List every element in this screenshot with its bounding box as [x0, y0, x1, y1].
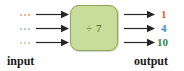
placeholder-dot: [20, 28, 22, 30]
input-caption: input: [7, 55, 34, 67]
output-value-row-1: 1: [161, 9, 167, 20]
placeholder-dot: [24, 28, 26, 30]
placeholder-dot: [28, 42, 30, 44]
input-placeholder-dots-row-3: [20, 42, 30, 44]
function-machine-diagram: ÷ 7 1 4 10 input output: [0, 0, 184, 71]
placeholder-dot: [24, 14, 26, 16]
input-placeholder-dots-row-1: [20, 14, 30, 16]
placeholder-dot: [20, 14, 22, 16]
placeholder-dot: [28, 14, 30, 16]
output-arrow-row-3: [124, 38, 156, 47]
input-placeholder-dots-row-2: [20, 28, 30, 30]
placeholder-dot: [24, 42, 26, 44]
placeholder-dot: [28, 28, 30, 30]
input-arrow-row-3: [36, 38, 70, 47]
output-caption: output: [134, 55, 168, 67]
output-value-row-2: 4: [161, 23, 167, 34]
output-arrow-row-1: [124, 10, 156, 19]
placeholder-dot: [20, 42, 22, 44]
machine-operation-label: ÷ 7: [86, 23, 102, 34]
input-arrow-row-1: [36, 10, 70, 19]
output-arrow-row-2: [124, 24, 156, 33]
input-arrow-row-2: [36, 24, 70, 33]
function-machine-box: ÷ 7: [70, 5, 118, 51]
output-value-row-3: 10: [157, 37, 168, 48]
